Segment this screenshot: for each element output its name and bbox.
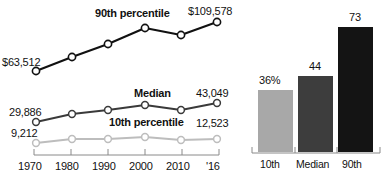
bar-90th xyxy=(338,27,373,152)
value-label-90th-start: $63,512 xyxy=(2,57,40,68)
x-tick-label-2016: '16 xyxy=(206,161,220,172)
x-tick-label-2000: 2000 xyxy=(129,161,153,172)
series-label-10th-percentile: 10th percentile xyxy=(109,117,184,128)
chart-figure: 90th percentile Median 10th percentile $… xyxy=(0,0,388,182)
value-label-90th-end: $109,578 xyxy=(188,6,232,17)
value-label-10th-start: 9,212 xyxy=(11,128,38,139)
bar-value-label-90th: 73 xyxy=(349,12,361,23)
series-markers-90th-percentile xyxy=(32,18,220,74)
bar-chart-panel: 36% 44 73 10th Median 90th xyxy=(242,0,388,182)
series-line-10th-percentile xyxy=(36,137,217,143)
bar-value-label-10th: 36% xyxy=(259,75,280,86)
bar-category-label-median: Median xyxy=(296,159,329,170)
bar-category-label-90th: 90th xyxy=(342,159,362,170)
series-line-90th-percentile xyxy=(36,22,217,71)
x-tick-label-1980: 1980 xyxy=(55,161,79,172)
series-label-90th-percentile: 90th percentile xyxy=(95,8,170,19)
value-label-median-start: 29,886 xyxy=(9,107,41,118)
series-label-median: Median xyxy=(134,88,171,99)
x-tick-label-2010: 2010 xyxy=(166,161,190,172)
bar-category-label-10th: 10th xyxy=(260,159,280,170)
x-tick-label-1970: 1970 xyxy=(18,161,42,172)
bar-value-label-median: 44 xyxy=(309,61,321,72)
line-chart-panel: 90th percentile Median 10th percentile $… xyxy=(0,0,242,182)
bar-chart-svg xyxy=(242,0,388,182)
value-label-10th-end: 12,523 xyxy=(196,118,228,129)
x-axis xyxy=(34,149,219,155)
bar-10th xyxy=(258,90,293,152)
x-tick-label-1990: 1990 xyxy=(92,161,116,172)
bar-median xyxy=(298,76,333,152)
value-label-median-end: 43,049 xyxy=(196,88,228,99)
